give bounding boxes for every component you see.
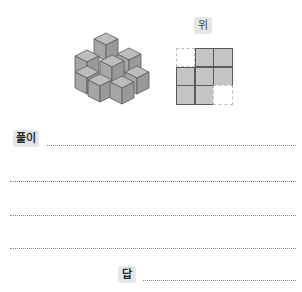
solution-line-3[interactable] (10, 215, 296, 216)
top-view-cell (195, 85, 214, 104)
answer-label: 답 (118, 266, 136, 283)
top-view-label: 위 (194, 17, 212, 34)
top-view-cell (176, 48, 195, 67)
solution-line-1[interactable] (47, 145, 296, 146)
solution-label: 풀이 (13, 130, 39, 147)
stacked-cubes-figure (70, 30, 155, 110)
top-view-cell (213, 48, 232, 67)
solution-line-4[interactable] (10, 248, 296, 249)
top-view-grid (176, 48, 232, 104)
top-view-cell (213, 67, 232, 86)
top-view-cell (195, 48, 214, 67)
top-view-cell (176, 67, 195, 86)
answer-line[interactable] (143, 280, 296, 281)
top-view-cell (195, 67, 214, 86)
solution-line-2[interactable] (10, 181, 296, 182)
top-view-cell (213, 85, 232, 104)
top-view-cell (176, 85, 195, 104)
